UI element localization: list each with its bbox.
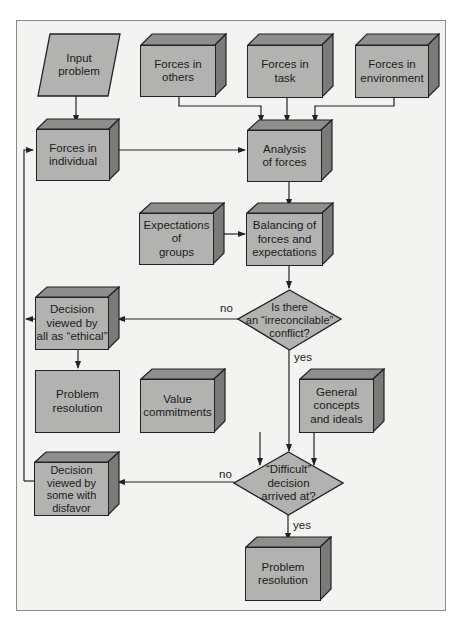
node-label: of	[172, 232, 182, 244]
node-label: viewed by	[47, 477, 96, 489]
node-label: “Difficult”	[266, 463, 311, 475]
node-expectations-of-groups: Expectationsofgroups	[139, 202, 225, 265]
node-label: Forces in	[261, 58, 308, 70]
node-label: General	[316, 386, 357, 398]
node-label: groups	[159, 246, 194, 258]
node-label: commitments	[143, 406, 211, 418]
node-general-concepts-ideals: Generalconceptsand ideals	[299, 368, 385, 433]
node-label: Value	[163, 393, 192, 405]
node-label: task	[274, 72, 295, 84]
node-label: Balancing of	[253, 219, 316, 231]
node-label: disfavor	[52, 502, 91, 514]
node-label: environment	[360, 72, 423, 84]
node-balancing-forces-expectations: Balancing offorces andexpectations	[246, 202, 334, 266]
node-problem-resolution-1: Problemresolution	[35, 370, 120, 433]
node-analysis-of-forces: Analysisof forces	[247, 119, 333, 182]
node-label: and ideals	[310, 413, 362, 425]
node-decision-viewed-ethical: Decisionviewed byall as “ethical”	[35, 286, 120, 350]
node-value-commitments: Valuecommitments	[140, 368, 226, 433]
decision-difficult-decision: “Difficult”decisionarrived at?	[233, 451, 344, 516]
node-label: conflict?	[269, 327, 309, 339]
edge-label-no: no	[219, 468, 232, 480]
node-forces-in-task: Forces intask	[247, 33, 334, 98]
node-decision-viewed-disfavor: Decisionviewed bysome withdisfavor	[34, 451, 120, 516]
node-forces-in-individual: Forces inindividual	[36, 118, 120, 181]
node-label: some with	[47, 489, 97, 501]
node-label: Is there	[271, 301, 308, 313]
node-label: Forces in	[154, 58, 201, 70]
decision-irreconcilable-conflict: Is therean “irreconcilable”conflict?	[237, 289, 342, 351]
node-label: Input	[66, 52, 92, 64]
node-label: individual	[49, 155, 97, 167]
node-label: Problem	[56, 388, 99, 400]
node-label: concepts	[313, 399, 359, 411]
node-label: Decision	[50, 303, 94, 315]
node-label: expectations	[252, 246, 317, 258]
node-label: forces and	[258, 233, 312, 245]
node-label: Problem	[262, 561, 305, 573]
node-label: Forces in	[49, 142, 96, 154]
node-input-problem: Inputproblem	[37, 33, 121, 97]
edge-label-no: no	[220, 302, 233, 314]
edge-label-yes: yes	[293, 519, 311, 531]
node-label: decision	[267, 477, 309, 489]
node-label: others	[162, 71, 194, 83]
node-label: arrived at?	[261, 490, 315, 502]
node-problem-resolution-2: Problemresolution	[245, 536, 332, 601]
node-label: problem	[58, 65, 100, 77]
node-label: all as “ethical”	[37, 330, 108, 342]
node-forces-in-environment: Forces inenvironment	[355, 33, 440, 98]
node-label: viewed by	[46, 317, 97, 329]
node-label: Analysis	[263, 143, 306, 155]
node-label: resolution	[258, 574, 308, 586]
node-label: an “irreconcilable”	[246, 314, 333, 326]
node-label: of forces	[262, 156, 306, 168]
node-label: Decision	[50, 464, 92, 476]
node-label: Expectations	[144, 219, 210, 231]
node-label: Forces in	[368, 58, 415, 70]
node-forces-in-others: Forces inothers	[140, 33, 227, 97]
node-label: resolution	[53, 402, 103, 414]
edge-label-yes: yes	[294, 351, 312, 363]
